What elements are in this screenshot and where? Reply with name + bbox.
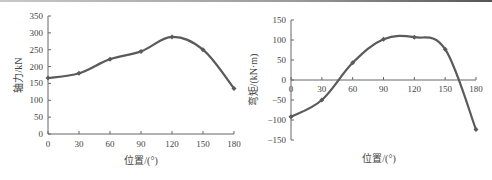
y-axis-ticks: −150−100−50050100150: [267, 15, 294, 145]
data-point-marker: [412, 35, 417, 40]
y-tick-label: 0: [39, 129, 44, 139]
axial-force-chart: 050100150200250300350 0306090120150180 位…: [12, 11, 241, 167]
y-tick-label: 150: [30, 78, 44, 88]
data-markers: [46, 34, 237, 91]
y-tick-label: 200: [30, 62, 44, 72]
data-line: [48, 37, 234, 89]
y-tick-label: −150: [267, 135, 286, 145]
y-tick-label: 300: [30, 28, 44, 38]
x-axis-label: 位置/(°): [362, 152, 395, 165]
bending-moment-chart: −150−100−50050100150 0306090120150180 位置…: [247, 15, 483, 165]
x-tick-label: 60: [106, 139, 116, 149]
x-tick-label: 150: [438, 84, 452, 94]
x-tick-label: 90: [137, 139, 147, 149]
x-tick-label: 60: [348, 84, 358, 94]
y-tick-label: 350: [30, 11, 44, 21]
y-axis-label: 轴力/kN: [12, 58, 24, 93]
y-tick-label: 150: [273, 15, 287, 25]
data-point-marker: [170, 34, 175, 39]
y-tick-label: −50: [272, 95, 287, 105]
x-tick-label: 0: [289, 84, 294, 94]
x-tick-label: 30: [75, 139, 85, 149]
x-tick-label: 30: [317, 84, 327, 94]
data-line: [291, 36, 476, 130]
y-tick-label: 50: [277, 55, 287, 65]
y-tick-label: 100: [273, 35, 287, 45]
data-point-marker: [46, 76, 51, 81]
x-tick-label: 180: [469, 84, 483, 94]
data-point-marker: [77, 71, 82, 76]
x-tick-label: 120: [165, 139, 179, 149]
y-tick-label: 0: [282, 75, 287, 85]
x-tick-label: 120: [408, 84, 422, 94]
y-tick-label: −100: [267, 115, 286, 125]
x-axis-label: 位置/(°): [124, 154, 157, 167]
x-tick-label: 180: [227, 139, 241, 149]
y-tick-label: 100: [30, 95, 44, 105]
y-tick-label: 250: [30, 45, 44, 55]
y-axis-label: 弯矩/(kN·m): [247, 54, 260, 107]
y-tick-label: 50: [34, 112, 44, 122]
x-tick-label: 0: [46, 139, 51, 149]
x-tick-label: 150: [196, 139, 210, 149]
x-tick-label: 90: [379, 84, 389, 94]
